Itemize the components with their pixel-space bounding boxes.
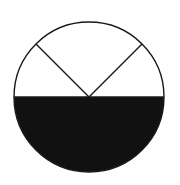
shaded-lower-half-sector [14, 97, 164, 172]
radius-45-degrees [89, 44, 142, 97]
diagram-canvas [0, 0, 180, 185]
circle-diagram [0, 0, 180, 185]
radius-135-degrees [36, 44, 89, 97]
